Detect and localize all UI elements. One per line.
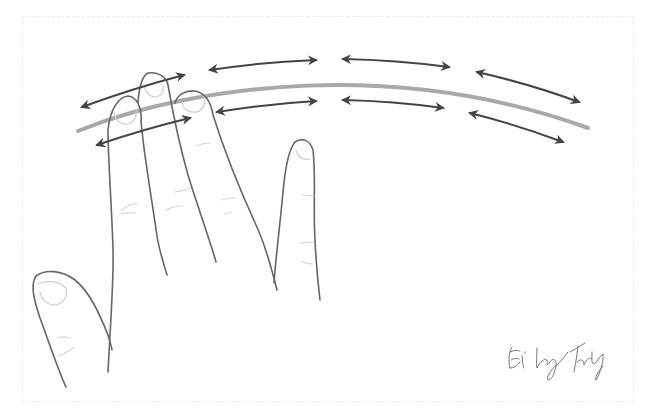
illustration-frame	[22, 16, 634, 402]
illustration-canvas: Eli Ing Pintry Hand resting on curved ba…	[0, 0, 656, 411]
